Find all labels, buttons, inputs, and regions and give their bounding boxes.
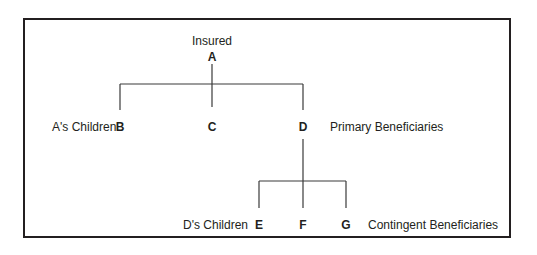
d-children-label: D's Children [183, 218, 248, 232]
node-e: E [249, 218, 269, 232]
primary-beneficiaries-label: Primary Beneficiaries [330, 120, 443, 134]
node-b: B [110, 120, 130, 134]
node-f: F [293, 218, 313, 232]
contingent-beneficiaries-label: Contingent Beneficiaries [368, 218, 498, 232]
node-a: A [202, 50, 222, 64]
insured-label: Insured [192, 34, 232, 48]
a-children-label: A's Children [52, 120, 116, 134]
node-d: D [293, 120, 313, 134]
node-g: G [336, 218, 356, 232]
node-c: C [202, 120, 222, 134]
